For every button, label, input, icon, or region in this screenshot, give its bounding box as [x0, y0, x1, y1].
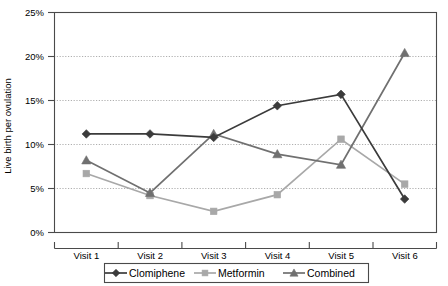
data-point-metformin-3	[210, 208, 217, 215]
x-tick-label: Visit 4	[265, 250, 291, 261]
y-axis-title: Live birth per ovulation	[2, 78, 13, 174]
data-point-clomiphene-6	[400, 195, 409, 204]
series-metformin	[83, 136, 408, 215]
y-tick-labels: 25% 20% 15% 10% 5% 0%	[25, 7, 45, 238]
y-axis-title-text: Live birth per ovulation	[2, 78, 13, 174]
y-tick-label: 0%	[30, 227, 44, 238]
legend-label: Metformin	[218, 267, 265, 279]
x-tick-marks	[55, 242, 437, 249]
x-tick-label: Visit 1	[74, 250, 100, 261]
series-line-clomiphene	[86, 94, 404, 199]
y-tick-label: 15%	[25, 95, 45, 106]
legend: ClomipheneMetforminCombined	[105, 267, 355, 279]
data-series-layer	[82, 48, 410, 214]
line-chart: Live birth per ovulation 25% 20% 15% 10%…	[0, 0, 448, 286]
series-line-metformin	[86, 139, 404, 211]
data-point-clomiphene-4	[273, 101, 282, 110]
data-point-clomiphene-2	[146, 130, 155, 139]
data-point-metformin-1	[83, 170, 90, 177]
data-point-combined-6	[400, 48, 409, 56]
data-point-metformin-6	[401, 181, 408, 188]
data-point-clomiphene-1	[82, 130, 91, 139]
y-tick-label: 25%	[25, 7, 45, 18]
series-line-combined	[86, 53, 404, 193]
y-tick-label: 5%	[30, 183, 44, 194]
data-point-metformin-4	[274, 191, 281, 198]
series-clomiphene	[82, 90, 409, 203]
chart-canvas: Live birth per ovulation 25% 20% 15% 10%…	[0, 0, 448, 286]
x-tick-label: Visit 5	[328, 250, 354, 261]
legend-label: Combined	[307, 267, 355, 279]
y-tick-marks	[48, 13, 54, 233]
x-tick-labels: Visit 1 Visit 2 Visit 3 Visit 4 Visit 5 …	[74, 250, 418, 261]
y-tick-label: 10%	[25, 139, 45, 150]
data-point-combined-1	[82, 156, 91, 164]
data-point-metformin-5	[338, 136, 345, 143]
legend-label: Clomiphene	[129, 267, 185, 279]
x-tick-label: Visit 2	[137, 250, 163, 261]
legend-marker-square-icon	[202, 270, 208, 276]
data-point-clomiphene-5	[337, 90, 346, 99]
y-tick-label: 20%	[25, 51, 45, 62]
x-tick-label: Visit 3	[201, 250, 227, 261]
x-tick-label: Visit 6	[392, 250, 418, 261]
